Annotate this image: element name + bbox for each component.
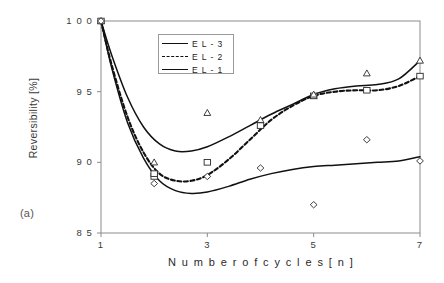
marker-diamond xyxy=(151,180,158,186)
legend-line-solid-icon xyxy=(162,65,188,75)
x-tick-label: 5 xyxy=(302,239,326,250)
marker-diamond xyxy=(310,202,317,208)
marker-triangle xyxy=(417,57,424,63)
legend: E L - 3 E L - 2 E L - 1 xyxy=(158,34,234,74)
marker-diamond xyxy=(363,137,370,143)
y-tick-label: 8 5 xyxy=(53,227,93,238)
marker-square xyxy=(204,160,210,166)
y-tick-label: 1 0 0 xyxy=(53,15,93,26)
legend-item-el-2: E L - 2 xyxy=(162,51,223,63)
marker-triangle xyxy=(151,159,158,165)
legend-label-el-3: E L - 3 xyxy=(192,39,223,49)
marker-square xyxy=(151,171,157,177)
marker-square xyxy=(417,73,423,79)
x-tick-label: 3 xyxy=(195,239,219,250)
legend-label-el-2: E L - 2 xyxy=(192,52,223,62)
marker-triangle xyxy=(257,117,264,123)
marker-triangle xyxy=(204,109,211,115)
y-tick-label: 9 0 xyxy=(53,156,93,167)
legend-item-el-1: E L - 1 xyxy=(162,64,223,76)
series-curve-el-2 xyxy=(101,21,420,182)
x-tick-label: 7 xyxy=(408,239,432,250)
legend-item-el-3: E L - 3 xyxy=(162,38,223,50)
marker-diamond xyxy=(417,158,424,164)
series-curve-el-3 xyxy=(101,21,420,152)
legend-line-dashed-icon xyxy=(162,52,188,62)
x-tick-label: 1 xyxy=(89,239,113,250)
marker-square xyxy=(364,87,370,93)
marker-square xyxy=(257,123,263,129)
marker-diamond xyxy=(257,165,264,171)
data-point-markers xyxy=(98,18,424,208)
legend-label-el-1: E L - 1 xyxy=(192,65,223,75)
figure-panel: (a) Reversibility [%] N u m b e r o f c … xyxy=(0,0,444,283)
marker-triangle xyxy=(363,70,370,76)
y-tick-label: 9 5 xyxy=(53,86,93,97)
legend-line-solid-icon xyxy=(162,39,188,49)
